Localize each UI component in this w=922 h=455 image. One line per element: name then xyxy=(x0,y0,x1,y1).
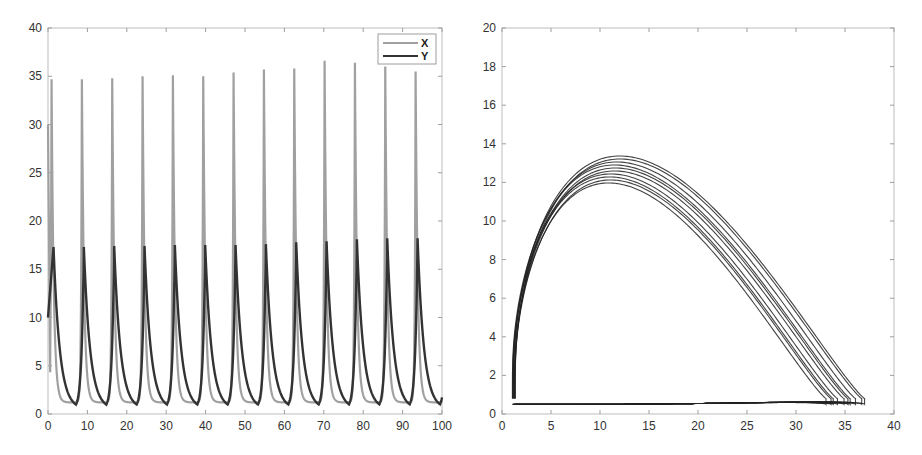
x-tick-label: 80 xyxy=(357,419,371,433)
figure: 0102030405060708090100 0510152025303540 … xyxy=(0,0,922,455)
y-tick-label: 15 xyxy=(29,262,43,276)
x-tick-label: 0 xyxy=(499,419,506,433)
x-tick-label: 25 xyxy=(740,419,754,433)
x-tick-label: 20 xyxy=(120,419,134,433)
x-tick-label: 35 xyxy=(838,419,852,433)
y-tick-label: 4 xyxy=(489,330,496,344)
legend: X Y xyxy=(378,34,436,64)
y-tick-label: 35 xyxy=(29,69,43,83)
x-tick-label: 90 xyxy=(396,419,410,433)
x-tick-label: 40 xyxy=(199,419,213,433)
x-tick-label: 10 xyxy=(593,419,607,433)
y-tick-label: 20 xyxy=(483,21,497,35)
x-tick-label: 60 xyxy=(278,419,292,433)
y-tick-label: 12 xyxy=(483,175,497,189)
x-tick-label: 50 xyxy=(238,419,252,433)
y-tick-label: 6 xyxy=(489,291,496,305)
x-tick-label: 15 xyxy=(642,419,656,433)
x-tick-label: 10 xyxy=(81,419,95,433)
y-tick-label: 40 xyxy=(29,21,43,35)
right-plot-area xyxy=(502,28,894,414)
y-tick-label: 18 xyxy=(483,60,497,74)
y-tick-label: 20 xyxy=(29,214,43,228)
phase-portrait-plot: 0510152025303540 02468101214161820 xyxy=(483,21,901,433)
y-tick-label: 16 xyxy=(483,98,497,112)
time-series-plot: 0102030405060708090100 0510152025303540 … xyxy=(29,21,453,433)
x-tick-label: 0 xyxy=(45,419,52,433)
x-tick-label: 100 xyxy=(432,419,452,433)
y-tick-label: 2 xyxy=(489,368,496,382)
x-tick-label: 30 xyxy=(789,419,803,433)
x-tick-label: 70 xyxy=(317,419,331,433)
y-tick-label: 10 xyxy=(483,214,497,228)
x-tick-label: 30 xyxy=(160,419,174,433)
y-tick-label: 14 xyxy=(483,137,497,151)
y-tick-label: 25 xyxy=(29,166,43,180)
y-tick-label: 8 xyxy=(489,253,496,267)
legend-x-label: X xyxy=(421,37,429,49)
y-tick-label: 30 xyxy=(29,118,43,132)
x-tick-label: 40 xyxy=(887,419,901,433)
legend-y-label: Y xyxy=(421,50,429,62)
y-tick-label: 0 xyxy=(489,407,496,421)
x-tick-label: 5 xyxy=(548,419,555,433)
y-tick-label: 5 xyxy=(35,359,42,373)
y-tick-label: 10 xyxy=(29,311,43,325)
y-tick-label: 0 xyxy=(35,407,42,421)
x-tick-label: 20 xyxy=(691,419,705,433)
